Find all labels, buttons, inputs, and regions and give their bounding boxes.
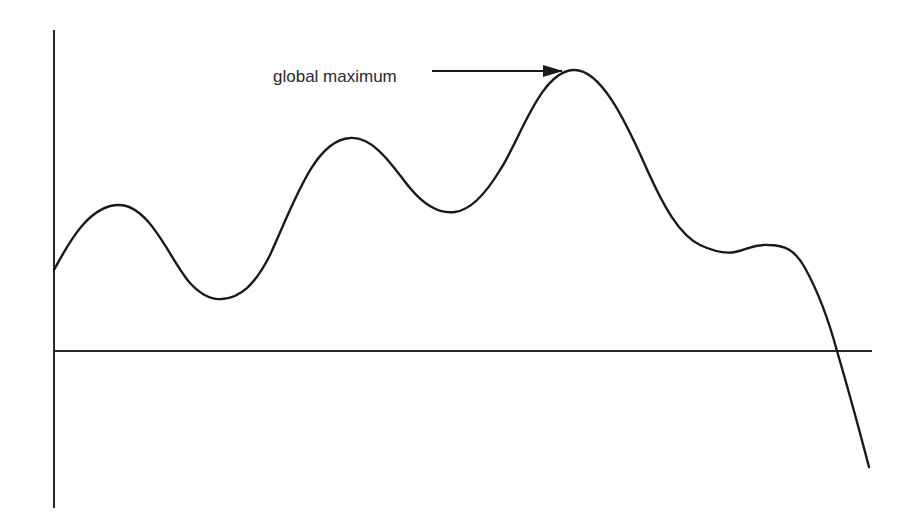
- global-maximum-label: global maximum: [273, 68, 397, 85]
- function-curve: [54, 70, 869, 467]
- function-plot: [0, 0, 914, 522]
